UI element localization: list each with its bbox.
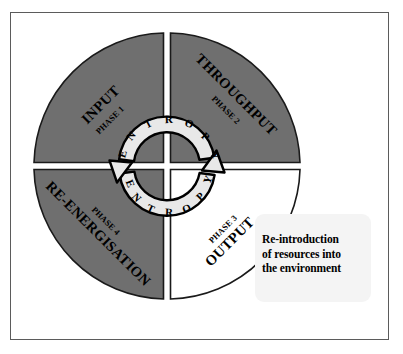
callout-line-2: of resources into <box>262 247 374 262</box>
diagram-canvas: INPUT PHASE 1 THROUGHPUT PHASE 2 RE-ENER… <box>0 0 403 354</box>
callout-line-3: the environment <box>262 261 374 276</box>
callout-line-1: Re-introduction <box>262 232 374 247</box>
lower-arc-letter-r: R <box>165 206 174 218</box>
quadrant-top-left-input: INPUT PHASE 1 <box>34 33 164 163</box>
quadrant-bottom-left-re-energisation: RE-ENERGISATION PHASE 4 <box>34 170 164 300</box>
re-introduction-callout-text: Re-introduction of resources into the en… <box>262 232 374 276</box>
